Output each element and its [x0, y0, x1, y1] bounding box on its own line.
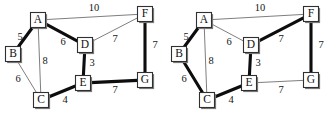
edge-weight-F-G: 7 [152, 39, 157, 50]
edge-weight-B-C: 6 [181, 73, 186, 84]
graph-panel-right: 58610643777ABCDEFG [172, 2, 324, 109]
edge-weight-C-E: 4 [228, 94, 234, 105]
edge-weight-D-F: 7 [112, 33, 117, 44]
node-label-G: G [141, 73, 149, 85]
node-label-F: F [308, 7, 314, 19]
edge-weight-F-G: 7 [318, 39, 323, 50]
node-label-E: E [79, 76, 86, 88]
edge-D-E [83, 53, 84, 76]
edge-weight-A-D: 6 [60, 36, 65, 47]
edge-A-C [38, 28, 40, 93]
graph-canvas: 58610643777ABCDEFG58610643777ABCDEFG [0, 0, 331, 126]
node-label-A: A [200, 13, 209, 25]
edge-A-F [46, 14, 138, 19]
edge-weight-D-E: 3 [89, 57, 94, 68]
edge-weight-A-D: 6 [226, 36, 231, 47]
node-label-D: D [81, 38, 89, 50]
edge-weight-A-B: 5 [183, 31, 188, 42]
edge-E-G [91, 80, 138, 82]
node-label-B: B [9, 47, 17, 59]
edge-weight-B-C: 6 [15, 73, 20, 84]
edge-weight-A-C: 8 [42, 55, 47, 66]
edge-A-F [212, 14, 304, 19]
edge-weight-A-B: 5 [17, 31, 22, 42]
edge-A-C [204, 28, 206, 93]
edge-weight-D-F: 7 [278, 33, 283, 44]
node-label-C: C [203, 93, 211, 105]
edge-weight-E-G: 7 [278, 84, 283, 95]
edge-weight-A-F: 10 [89, 2, 100, 13]
node-label-A: A [34, 13, 43, 25]
edge-weight-A-C: 8 [208, 55, 213, 66]
edge-weight-A-F: 10 [255, 2, 266, 13]
node-label-F: F [142, 7, 148, 19]
edge-weight-E-G: 7 [112, 84, 117, 95]
edge-weight-D-E: 3 [255, 57, 260, 68]
graph-figure: 58610643777ABCDEFG58610643777ABCDEFG [0, 0, 331, 126]
graph-panel-left: 58610643777ABCDEFG [6, 2, 158, 109]
edge-weight-C-E: 4 [62, 94, 68, 105]
node-label-C: C [37, 93, 45, 105]
node-label-B: B [175, 47, 183, 59]
node-label-G: G [307, 73, 315, 85]
edge-D-E [249, 53, 250, 76]
node-label-E: E [245, 76, 252, 88]
node-label-D: D [247, 38, 255, 50]
edge-E-G [257, 80, 304, 82]
